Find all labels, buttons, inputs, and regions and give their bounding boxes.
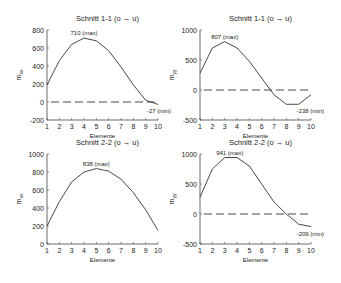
x-tick-label: 3 bbox=[223, 247, 227, 254]
chart-title: Schnitt 2-2 (o → u) bbox=[229, 138, 292, 147]
y-tick-label: 1000 bbox=[181, 151, 197, 158]
x-tick-label: 8 bbox=[284, 247, 288, 254]
x-tick-label: 7 bbox=[272, 247, 276, 254]
y-tick-label: 600 bbox=[32, 187, 44, 194]
y-tick-label: 0 bbox=[193, 211, 197, 218]
y-tick-label: 400 bbox=[32, 63, 44, 70]
x-tick-label: 1 bbox=[198, 123, 202, 130]
x-axis-label: Elemente bbox=[90, 257, 116, 263]
y-tick-label: 800 bbox=[32, 27, 44, 34]
y-tick-label: -500 bbox=[183, 117, 197, 124]
x-tick-label: 7 bbox=[119, 123, 123, 130]
y-tick-label: 500 bbox=[185, 57, 197, 64]
x-tick-label: 9 bbox=[144, 247, 148, 254]
x-tick-label: 3 bbox=[70, 247, 74, 254]
x-tick-label: 1 bbox=[45, 123, 49, 130]
chart-title: Schnitt 1-1 (o → u) bbox=[76, 14, 139, 23]
chart-panel-4: -5000500100012345678910Schnitt 2-2 (o → … bbox=[168, 138, 324, 263]
x-tick-label: 3 bbox=[223, 123, 227, 130]
chart-title: Schnitt 2-2 (o → u) bbox=[76, 138, 139, 147]
y-tick-label: 800 bbox=[32, 169, 44, 176]
x-tick-label: 7 bbox=[272, 123, 276, 130]
x-tick-label: 7 bbox=[119, 247, 123, 254]
max-annotation: 807 (max) bbox=[211, 34, 238, 40]
x-tick-label: 2 bbox=[57, 247, 61, 254]
x-tick-label: 5 bbox=[94, 247, 98, 254]
x-tick-label: 1 bbox=[198, 247, 202, 254]
x-tick-label: 8 bbox=[131, 247, 135, 254]
y-tick-label: -200 bbox=[30, 117, 44, 124]
x-tick-label: 3 bbox=[70, 123, 74, 130]
x-tick-label: 9 bbox=[144, 123, 148, 130]
chart-panel-2: -5000500100012345678910Schnitt 1-1 (o → … bbox=[168, 14, 324, 139]
x-tick-label: 10 bbox=[307, 247, 315, 254]
x-tick-label: 5 bbox=[247, 123, 251, 130]
x-tick-label: 2 bbox=[210, 247, 214, 254]
x-tick-label: 5 bbox=[247, 247, 251, 254]
y-axis-label: myy bbox=[168, 193, 177, 204]
x-tick-label: 2 bbox=[57, 123, 61, 130]
data-series-line bbox=[200, 42, 311, 105]
min-annotation: -27 (min) bbox=[147, 108, 171, 114]
x-tick-label: 1 bbox=[45, 247, 49, 254]
x-tick-label: 6 bbox=[107, 247, 111, 254]
y-tick-label: 1000 bbox=[28, 151, 44, 158]
y-tick-label: 200 bbox=[32, 81, 44, 88]
x-tick-label: 9 bbox=[297, 247, 301, 254]
chart-panel-1: -200020040060080012345678910Schnitt 1-1 … bbox=[15, 14, 171, 139]
y-tick-label: 200 bbox=[32, 223, 44, 230]
max-annotation: 710 (max) bbox=[70, 30, 97, 36]
x-tick-label: 4 bbox=[82, 123, 86, 130]
x-tick-label: 6 bbox=[107, 123, 111, 130]
x-tick-label: 10 bbox=[154, 123, 162, 130]
x-tick-label: 10 bbox=[307, 123, 315, 130]
x-tick-label: 10 bbox=[154, 247, 162, 254]
x-tick-label: 6 bbox=[260, 247, 264, 254]
y-tick-label: 0 bbox=[40, 99, 44, 106]
y-axis-label: mxx bbox=[15, 193, 24, 204]
y-tick-label: 400 bbox=[32, 205, 44, 212]
y-tick-label: 600 bbox=[32, 45, 44, 52]
data-series-line bbox=[47, 169, 158, 231]
y-axis-label: myy bbox=[168, 69, 177, 80]
x-tick-label: 4 bbox=[82, 247, 86, 254]
figure: -200020040060080012345678910Schnitt 1-1 … bbox=[0, 0, 341, 283]
x-tick-label: 4 bbox=[235, 247, 239, 254]
y-tick-label: 0 bbox=[40, 241, 44, 248]
x-tick-label: 8 bbox=[131, 123, 135, 130]
x-axis-label: Elemente bbox=[243, 257, 269, 263]
max-annotation: 941 (max) bbox=[216, 150, 243, 156]
x-tick-label: 8 bbox=[284, 123, 288, 130]
data-series-line bbox=[47, 38, 158, 104]
chart-title: Schnitt 1-1 (o → u) bbox=[229, 14, 292, 23]
y-axis-label: mxx bbox=[15, 69, 24, 80]
y-tick-label: 1000 bbox=[181, 27, 197, 34]
x-tick-label: 4 bbox=[235, 123, 239, 130]
min-annotation: -209 (min) bbox=[297, 231, 324, 237]
x-tick-label: 5 bbox=[94, 123, 98, 130]
y-tick-label: 0 bbox=[193, 87, 197, 94]
min-annotation: -238 (min) bbox=[297, 108, 324, 114]
data-series-line bbox=[200, 158, 311, 227]
x-tick-label: 9 bbox=[297, 123, 301, 130]
y-tick-label: 500 bbox=[185, 181, 197, 188]
y-tick-label: -500 bbox=[183, 241, 197, 248]
max-annotation: 838 (max) bbox=[83, 161, 110, 167]
chart-panel-3: 0200400600800100012345678910Schnitt 2-2 … bbox=[15, 138, 162, 263]
x-tick-label: 2 bbox=[210, 123, 214, 130]
x-tick-label: 6 bbox=[260, 123, 264, 130]
